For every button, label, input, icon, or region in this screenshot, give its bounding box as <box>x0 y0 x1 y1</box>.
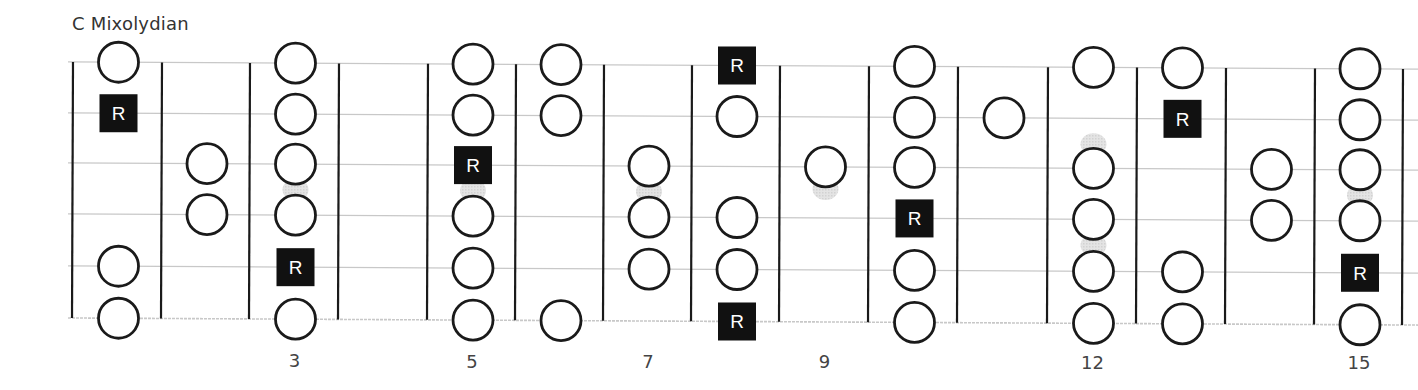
fret-line-5 <box>515 64 516 320</box>
fret-line-9 <box>868 66 869 322</box>
root-note-marker: R <box>454 146 492 184</box>
scale-note-circle <box>276 94 316 134</box>
scale-note-circle <box>1163 304 1203 344</box>
scale-note-circle <box>895 46 935 86</box>
fret-number-3: 3 <box>289 350 300 371</box>
fret-line-0 <box>72 62 73 318</box>
scale-note-circle <box>1074 303 1114 343</box>
scale-note-circle <box>895 250 935 290</box>
fret-line-1 <box>161 62 162 318</box>
scale-note-circle <box>717 96 757 136</box>
scale-note-circle <box>187 144 227 184</box>
scale-note-circle <box>629 197 669 237</box>
root-note-marker: R <box>277 248 315 286</box>
fretboard-diagram: RRRRRRRR 35791215 <box>0 0 1418 390</box>
string-line-3 <box>68 163 1418 170</box>
fret-line-8 <box>779 66 780 322</box>
scale-note-circle <box>895 302 935 342</box>
scale-note-circle <box>1074 47 1114 87</box>
fret-line-11 <box>1047 67 1048 323</box>
fret-number-12: 12 <box>1081 352 1104 373</box>
scale-note-circle <box>1340 305 1380 345</box>
scale-note-circle <box>453 95 493 135</box>
scale-note-circle <box>1252 200 1292 240</box>
scale-note-circle <box>629 249 669 289</box>
scale-note-circle <box>187 195 227 235</box>
fret-line-14 <box>1314 69 1315 325</box>
root-label: R <box>1353 263 1367 284</box>
fret-number-7: 7 <box>642 351 653 372</box>
root-label: R <box>466 155 480 176</box>
scale-note-circle <box>276 299 316 339</box>
scale-note-circle <box>1340 49 1380 89</box>
fret-line-10 <box>957 67 958 323</box>
root-label: R <box>1176 109 1190 130</box>
root-note-marker: R <box>718 46 756 84</box>
scale-note-circle <box>717 249 757 289</box>
root-label: R <box>730 311 744 332</box>
root-note-marker: R <box>100 94 138 132</box>
fret-number-labels: 35791215 <box>289 350 1371 373</box>
scale-note-circle <box>453 44 493 84</box>
root-note-marker: R <box>1341 254 1379 292</box>
scale-note-circle <box>453 300 493 340</box>
scale-note-circle <box>99 246 139 286</box>
fret-line-2 <box>249 63 250 319</box>
fret-line-12 <box>1136 68 1137 324</box>
fret-line-13 <box>1225 68 1226 324</box>
root-note-marker: R <box>1164 100 1202 138</box>
scale-note-circle <box>453 196 493 236</box>
scale-note-circle <box>541 96 581 136</box>
root-note-marker: R <box>896 199 934 237</box>
scale-note-circle <box>1074 251 1114 291</box>
scale-note-circle <box>1252 149 1292 189</box>
scale-note-circle <box>276 144 316 184</box>
root-note-marker: R <box>718 302 756 340</box>
scale-note-circle <box>1340 201 1380 241</box>
fret-line-3 <box>338 63 339 319</box>
scale-note-circle <box>717 197 757 237</box>
scale-note-circle <box>1163 252 1203 292</box>
scale-note-circle <box>541 45 581 85</box>
scale-note-circle <box>276 43 316 83</box>
scale-note-circle <box>453 248 493 288</box>
scale-note-circle <box>984 98 1024 138</box>
fret-line-7 <box>691 65 692 321</box>
scale-note-circle <box>1074 199 1114 239</box>
scale-note-circle <box>1340 100 1380 140</box>
root-label: R <box>112 103 126 124</box>
fret-line-4 <box>427 64 428 320</box>
fret-number-15: 15 <box>1348 352 1371 373</box>
fret-line-6 <box>603 65 604 321</box>
scale-note-circle <box>99 298 139 338</box>
scale-note-circle <box>895 97 935 137</box>
scale-note-circle <box>895 147 935 187</box>
fret-line-15 <box>1402 69 1403 325</box>
fret-number-5: 5 <box>466 351 477 372</box>
scale-note-circle <box>629 146 669 186</box>
scale-note-circle <box>276 195 316 235</box>
scale-note-circle <box>99 42 139 82</box>
root-label: R <box>908 208 922 229</box>
fret-number-9: 9 <box>819 351 830 372</box>
scale-note-circle <box>1074 148 1114 188</box>
root-label: R <box>730 55 744 76</box>
scale-note-circle <box>541 301 581 341</box>
scale-note-circle <box>1340 150 1380 190</box>
scale-note-circle <box>806 147 846 187</box>
scale-note-circle <box>1163 48 1203 88</box>
root-label: R <box>289 257 303 278</box>
